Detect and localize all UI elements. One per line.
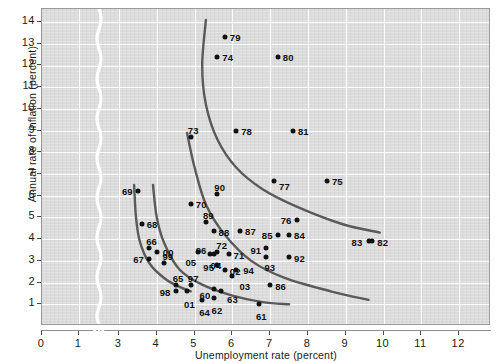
data-point-label: 70 [196, 200, 207, 210]
x-tick-mark [458, 331, 459, 335]
y-tick-mark [37, 21, 41, 22]
data-point-label: 88 [219, 228, 230, 238]
data-point[interactable] [135, 189, 140, 194]
data-point-label: 82 [377, 238, 388, 248]
data-point[interactable] [185, 289, 190, 294]
y-tick-mark [37, 173, 41, 174]
data-point[interactable] [287, 254, 292, 259]
data-point-label: 01 [184, 300, 195, 310]
y-tick-mark [37, 86, 41, 87]
data-point[interactable] [275, 232, 280, 237]
data-point[interactable] [154, 250, 159, 255]
data-point[interactable] [222, 267, 227, 272]
y-tick-label: 1 [5, 297, 35, 308]
data-point-label: 79 [230, 33, 241, 43]
data-point[interactable] [226, 252, 231, 257]
data-point[interactable] [211, 295, 216, 300]
x-tick-label: 12 [443, 338, 473, 349]
y-tick-label: 10 [5, 102, 35, 113]
plot-area: 6968660067996598019764709089888796727105… [41, 8, 490, 325]
data-point[interactable] [234, 267, 239, 272]
y-tick-mark [37, 282, 41, 283]
x-tick-label: 4 [141, 338, 171, 349]
data-point-label: 60 [200, 291, 211, 301]
data-point[interactable] [219, 289, 224, 294]
data-point[interactable] [230, 274, 235, 279]
data-point[interactable] [211, 228, 216, 233]
y-tick-mark [37, 303, 41, 304]
data-point[interactable] [272, 178, 277, 183]
data-point[interactable] [268, 282, 273, 287]
y-tick-label: 5 [5, 210, 35, 221]
gridline-vertical [308, 9, 309, 324]
data-point[interactable] [215, 54, 220, 59]
axis-break-squiggle-icon [92, 9, 106, 324]
x-tick-mark [194, 331, 195, 335]
y-tick-label: 11 [5, 80, 35, 91]
gridline-vertical [119, 9, 120, 324]
x-tick-mark [41, 331, 42, 335]
x-tick-label: 8 [292, 338, 322, 349]
x-tick-label: 6 [216, 338, 246, 349]
data-point-label: 87 [245, 227, 256, 237]
data-point[interactable] [256, 302, 261, 307]
y-tick-mark [37, 64, 41, 65]
data-point[interactable] [264, 245, 269, 250]
data-point-label: 05 [185, 258, 196, 268]
data-point[interactable] [264, 254, 269, 259]
data-point[interactable] [275, 54, 280, 59]
x-tick-label: 5 [179, 338, 209, 349]
data-point-label: 68 [147, 220, 158, 230]
x-tick-mark [156, 331, 157, 335]
data-point[interactable] [188, 202, 193, 207]
x-tick-mark [420, 331, 421, 335]
data-point[interactable] [287, 232, 292, 237]
x-tick-mark [345, 331, 346, 335]
y-tick-mark [37, 238, 41, 239]
data-point-label: 63 [227, 295, 238, 305]
x-tick-label: 0 [26, 338, 56, 349]
data-point[interactable] [173, 289, 178, 294]
data-point-label: 94 [243, 266, 254, 276]
data-point[interactable] [238, 228, 243, 233]
data-point[interactable] [234, 128, 239, 133]
data-point-label: 77 [279, 182, 290, 192]
y-tick-label: 6 [5, 189, 35, 200]
y-tick-mark [37, 130, 41, 131]
gridline-vertical [270, 9, 271, 324]
data-point[interactable] [370, 239, 375, 244]
x-tick-mark [307, 331, 308, 335]
data-point-label: 67 [133, 255, 144, 265]
data-point-label: 66 [146, 237, 157, 247]
data-point[interactable] [222, 35, 227, 40]
y-tick-label: 7 [5, 167, 35, 178]
x-axis-title: Unemployment rate (percent) [41, 349, 491, 361]
y-tick-mark [37, 151, 41, 152]
data-point-label: 61 [256, 312, 267, 322]
data-point[interactable] [294, 217, 299, 222]
gridline-vertical [157, 9, 158, 324]
y-tick-label: 9 [5, 124, 35, 135]
data-point-label: 98 [160, 288, 171, 298]
data-point[interactable] [215, 263, 220, 268]
y-tick-label: 8 [5, 145, 35, 156]
data-point[interactable] [211, 287, 216, 292]
data-point-label: 65 [173, 274, 184, 284]
data-point-label: 91 [250, 246, 261, 256]
data-point[interactable] [211, 252, 216, 257]
data-point[interactable] [147, 256, 152, 261]
y-tick-label: 13 [5, 37, 35, 48]
y-tick-mark [37, 43, 41, 44]
data-point-label: 99 [162, 252, 173, 262]
data-point-label: 92 [294, 254, 305, 264]
data-point[interactable] [196, 250, 201, 255]
data-point[interactable] [324, 178, 329, 183]
x-tick-mark [231, 331, 232, 335]
gridline-vertical [346, 9, 347, 324]
x-tick-label: 1 [63, 338, 93, 349]
y-tick-mark [37, 216, 41, 217]
data-point[interactable] [139, 222, 144, 227]
data-point[interactable] [290, 128, 295, 133]
data-point-label: 86 [275, 282, 286, 292]
data-point-label: 72 [216, 241, 227, 251]
